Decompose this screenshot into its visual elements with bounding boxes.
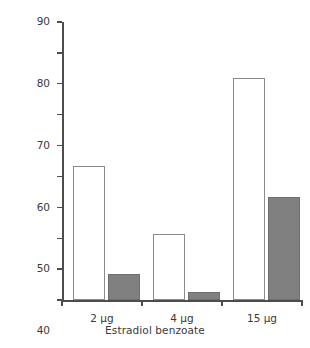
y-tick: 90 [57, 21, 62, 22]
x-axis-line [61, 300, 302, 302]
bar-filled-0 [108, 274, 140, 300]
bar-filled-2 [268, 197, 300, 300]
bar-open-0 [73, 166, 105, 300]
y-tick: 50 [57, 145, 62, 146]
y-tick: 60 [57, 114, 62, 115]
bar-open-1 [153, 234, 185, 300]
y-tick-label: 90 [10, 13, 50, 29]
y-tick-label: 80 [10, 75, 50, 91]
x-tick [301, 300, 302, 306]
y-tick-label: 50 [10, 260, 50, 276]
y-tick-label: 70 [10, 137, 50, 153]
bar-open-2 [233, 78, 265, 300]
bar-filled-1 [188, 292, 220, 300]
x-tick [221, 300, 222, 306]
chart-figure: Rats becoming diabetic (%) 0102030405060… [0, 0, 310, 348]
x-tick [141, 300, 142, 306]
y-tick: 20 [57, 238, 62, 239]
x-axis-title: Estradiol benzoate [0, 324, 310, 336]
y-tick: 70 [57, 83, 62, 84]
y-tick: 10 [57, 268, 62, 269]
y-tick: 80 [57, 52, 62, 53]
y-tick: 40 [57, 176, 62, 177]
y-axis-line [62, 22, 64, 300]
y-tick: 30 [57, 207, 62, 208]
y-tick-label: 60 [10, 199, 50, 215]
plot-area: 0102030405060708090 2 µg4 µg15 µg [62, 22, 302, 300]
x-tick [61, 300, 62, 306]
